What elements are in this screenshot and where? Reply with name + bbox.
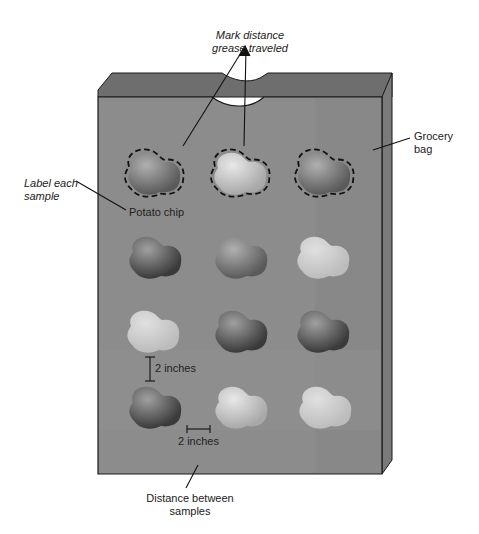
mark-distance-label: Mark distance grease traveled — [205, 29, 295, 55]
horizontal-spacing-label: 2 inches — [178, 435, 219, 448]
bag-side-panel — [382, 73, 392, 474]
potato-chip-label: Potato chip — [129, 206, 184, 219]
diagram: Mark distance grease traveled Label each… — [0, 0, 479, 534]
vertical-spacing-label: 2 inches — [155, 362, 196, 375]
distance-between-samples-label: Distance between samples — [135, 492, 245, 518]
grocery-bag-illustration — [0, 0, 479, 534]
grocery-bag-label: Grocery bag — [414, 130, 453, 156]
label-each-sample-label: Label each sample — [24, 177, 78, 203]
